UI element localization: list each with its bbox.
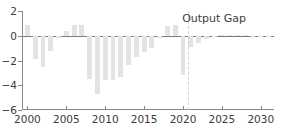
- y-tick-label: −4: [2, 80, 17, 91]
- bar: [157, 36, 162, 38]
- bar: [258, 36, 263, 37]
- bar: [165, 26, 170, 35]
- bar: [25, 25, 30, 36]
- output-gap-chart: 20−2−4−6 2000200520102015202020252030 Ou…: [0, 0, 285, 137]
- bar: [196, 36, 201, 43]
- bar: [111, 36, 116, 80]
- y-tick: [18, 11, 22, 12]
- bar: [188, 36, 193, 47]
- bar: [126, 36, 131, 66]
- y-tick: [18, 85, 22, 86]
- y-tick: [18, 110, 22, 111]
- x-tick-label: 2030: [247, 114, 274, 125]
- x-axis-line: [22, 109, 274, 110]
- bar: [33, 36, 38, 60]
- bar: [212, 36, 217, 37]
- bar: [103, 36, 108, 81]
- series-annotation-label: Output Gap: [182, 12, 246, 23]
- bar: [243, 35, 248, 36]
- bar: [118, 36, 123, 77]
- y-axis-line: [22, 11, 23, 110]
- bar: [251, 36, 256, 37]
- x-tick-label: 2020: [170, 114, 197, 125]
- bar: [227, 35, 232, 36]
- bar: [181, 36, 186, 76]
- x-tick: [66, 106, 67, 110]
- bar: [64, 31, 69, 36]
- bar: [41, 36, 46, 67]
- x-tick: [27, 106, 28, 110]
- x-tick: [222, 106, 223, 110]
- y-tick-label: −2: [2, 55, 17, 66]
- y-tick: [18, 61, 22, 62]
- x-tick-label: 2025: [209, 114, 236, 125]
- y-tick-label: 0: [10, 31, 17, 42]
- x-tick: [144, 106, 145, 110]
- forecast-divider-line: [188, 11, 189, 110]
- x-tick-label: 2005: [53, 114, 80, 125]
- bar: [142, 36, 147, 52]
- x-tick: [183, 106, 184, 110]
- bar: [204, 36, 209, 39]
- bar: [95, 36, 100, 94]
- bar: [79, 25, 84, 36]
- bar: [87, 36, 92, 79]
- plot-area: 20−2−4−6 2000200520102015202020252030 Ou…: [22, 11, 274, 110]
- bar: [266, 36, 271, 37]
- x-tick-label: 2015: [131, 114, 158, 125]
- bar: [235, 35, 240, 36]
- x-tick-label: 2000: [14, 114, 41, 125]
- bar: [72, 25, 77, 36]
- y-tick-label: 2: [10, 6, 17, 17]
- bar: [56, 36, 61, 38]
- x-tick: [261, 106, 262, 110]
- bar: [173, 25, 178, 36]
- x-tick: [105, 106, 106, 110]
- bar: [134, 36, 139, 58]
- bar: [149, 36, 154, 48]
- x-tick-label: 2010: [92, 114, 119, 125]
- bar: [219, 35, 224, 36]
- y-tick: [18, 36, 22, 37]
- bar: [48, 36, 53, 51]
